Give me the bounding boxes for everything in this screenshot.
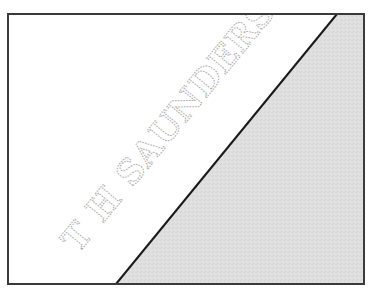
watermark-illustration: T H SAUNDERS <box>0 0 372 293</box>
illustration-svg: T H SAUNDERS <box>0 0 372 293</box>
